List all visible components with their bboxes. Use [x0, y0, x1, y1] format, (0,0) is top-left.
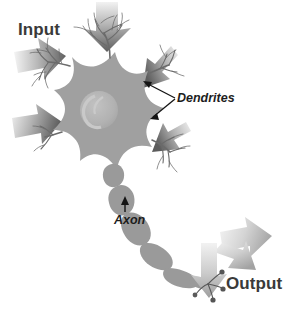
terminal-bulb-3 [210, 297, 215, 302]
axon-hillock [103, 164, 124, 187]
terminal-bulb-2 [220, 286, 225, 291]
myelin-segment-1 [108, 185, 134, 215]
input-label: Input [18, 20, 60, 40]
input-arrow-top [84, 2, 131, 52]
terminal-bulb-4 [193, 293, 198, 298]
neuron-diagram: Input Output Dendrites Axon [0, 0, 293, 313]
dendrites-label: Dendrites [177, 91, 235, 105]
myelin-segment-3 [140, 243, 173, 270]
neuron-illustration [0, 0, 293, 313]
input-arrow-lower-left [12, 104, 62, 144]
terminal-bulb-1 [219, 269, 224, 274]
output-label: Output [226, 274, 282, 294]
axon-label: Axon [114, 213, 145, 227]
